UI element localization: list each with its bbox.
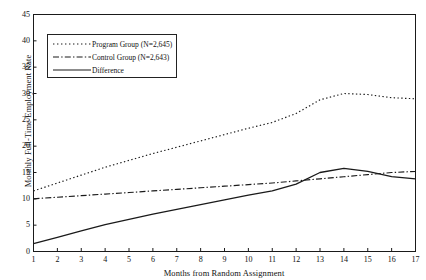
series-line: [34, 94, 416, 191]
legend-key-dash-dot-icon: [52, 52, 92, 62]
legend-item-control-group: Control Group (N=2,643): [52, 51, 172, 63]
data-lines: [34, 94, 416, 244]
legend-key-dotted-icon: [52, 39, 92, 49]
legend-label-difference: Difference: [92, 66, 124, 75]
series-line: [34, 168, 416, 243]
legend-item-difference: Difference: [52, 64, 172, 76]
series-line: [34, 171, 416, 198]
legend-item-program-group: Program Group (N=2,645): [52, 38, 172, 50]
chart-figure: Monthly Full-Time Employment Rate 051015…: [0, 0, 426, 280]
legend-label-control-group: Control Group (N=2,643): [92, 53, 169, 62]
legend-label-program-group: Program Group (N=2,645): [92, 40, 172, 49]
chart-legend: Program Group (N=2,645) Control Group (N…: [47, 34, 177, 78]
legend-key-solid-icon: [52, 65, 92, 75]
